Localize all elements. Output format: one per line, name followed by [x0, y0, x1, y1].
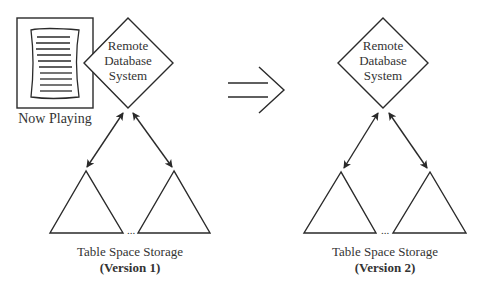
database-label-line: System [343, 68, 423, 83]
database-label-line: System [88, 68, 168, 83]
arrow-db-to-tree2-v2 [389, 113, 427, 168]
storage-tree-1-v1 [50, 171, 123, 233]
database-label-line: Remote [88, 38, 168, 53]
database-label-v2: Remote Database System [343, 38, 423, 83]
database-label-line: Database [343, 53, 423, 68]
storage-label-v1: Table Space Storage [55, 244, 205, 260]
version-label-v2: (Version 2) [310, 260, 460, 276]
version-label-v1: (Version 1) [55, 260, 205, 276]
arrow-db-to-tree1-v2 [344, 113, 378, 168]
database-label-line: Remote [343, 38, 423, 53]
double-arrow-right-icon [228, 67, 284, 113]
storage-tree-2-v2 [393, 172, 466, 233]
database-label-v1: Remote Database System [88, 38, 168, 83]
storage-tree-2-v1 [138, 171, 210, 233]
storage-label-v2: Table Space Storage [310, 244, 460, 260]
arrow-db-to-tree2-v1 [133, 113, 172, 167]
database-label-line: Database [88, 53, 168, 68]
now-playing-document [17, 18, 93, 108]
ellipsis-v2: ... [378, 222, 392, 238]
now-playing-caption: Now Playing [5, 111, 105, 127]
ellipsis-v1: ... [124, 222, 138, 238]
document-icon [31, 29, 79, 99]
storage-tree-1-v2 [304, 172, 376, 233]
